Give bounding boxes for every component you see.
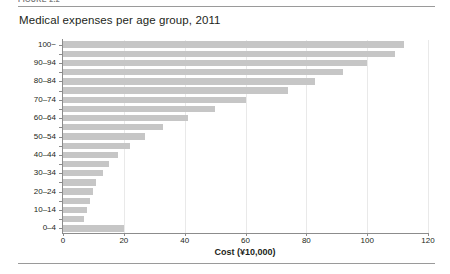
bar-row xyxy=(63,97,246,103)
bar xyxy=(63,152,118,158)
y-tick-label: 100~ xyxy=(0,40,56,49)
y-tick-mark xyxy=(59,219,62,220)
y-tick-mark xyxy=(59,146,62,147)
bar-row xyxy=(63,106,215,112)
bar xyxy=(63,106,215,112)
bar xyxy=(63,216,84,222)
y-tick-mark xyxy=(59,63,62,64)
x-axis-title: Cost (¥10,000) xyxy=(214,247,275,257)
y-tick-mark xyxy=(59,173,62,174)
bar xyxy=(63,78,315,84)
bar-row xyxy=(63,161,109,167)
bar xyxy=(63,60,367,66)
y-tick-label: 40–44 xyxy=(0,150,56,159)
bar xyxy=(63,97,246,103)
bar-row xyxy=(63,188,93,194)
y-tick-mark xyxy=(59,118,62,119)
chart-title: Medical expenses per age group, 2011 xyxy=(19,14,221,26)
y-tick-mark xyxy=(59,54,62,55)
bar-row xyxy=(63,207,87,213)
bar xyxy=(63,115,188,121)
bar-row xyxy=(63,51,395,57)
bar-row xyxy=(63,179,96,185)
bar xyxy=(63,133,145,139)
y-tick-mark xyxy=(59,182,62,183)
bar xyxy=(63,161,109,167)
bar xyxy=(63,170,103,176)
bar xyxy=(63,225,124,231)
bar-row xyxy=(63,87,288,93)
figure-caption-partial: FIGURE 2.2 xyxy=(18,0,60,3)
y-tick-mark xyxy=(59,228,62,229)
y-tick-label: 80–84 xyxy=(0,76,56,85)
bar-row xyxy=(63,69,343,75)
y-tick-mark xyxy=(59,164,62,165)
bar-row xyxy=(63,198,90,204)
x-tick-label: 0 xyxy=(61,236,65,245)
y-tick-label: 0–4 xyxy=(0,223,56,232)
x-tick-label: 20 xyxy=(119,236,128,245)
x-tick-label: 80 xyxy=(302,236,311,245)
bar-row xyxy=(63,225,124,231)
y-tick-mark xyxy=(59,45,62,46)
bar-row xyxy=(63,60,367,66)
bar xyxy=(63,207,87,213)
y-tick-mark xyxy=(59,127,62,128)
y-tick-mark xyxy=(59,100,62,101)
bar-row xyxy=(63,115,188,121)
bar xyxy=(63,143,130,149)
y-tick-label: 60–64 xyxy=(0,113,56,122)
y-tick-label: 20–24 xyxy=(0,187,56,196)
bar xyxy=(63,87,288,93)
y-tick-mark xyxy=(59,72,62,73)
y-tick-label: 50–54 xyxy=(0,132,56,141)
y-tick-label: 70–74 xyxy=(0,95,56,104)
bar-row xyxy=(63,216,84,222)
bar xyxy=(63,51,395,57)
bar-row xyxy=(63,170,103,176)
top-divider xyxy=(18,6,435,7)
y-tick-label: 90–94 xyxy=(0,58,56,67)
gridline xyxy=(428,40,429,233)
plot-area xyxy=(63,40,428,233)
x-tick-label: 40 xyxy=(180,236,189,245)
y-tick-mark xyxy=(59,155,62,156)
bar xyxy=(63,41,404,47)
bar xyxy=(63,179,96,185)
x-tick-label: 100 xyxy=(360,236,373,245)
x-tick-label: 60 xyxy=(241,236,250,245)
gridline xyxy=(367,40,368,233)
y-tick-mark xyxy=(59,192,62,193)
figure-page: FIGURE 2.2 Medical expenses per age grou… xyxy=(0,0,450,274)
bottom-divider xyxy=(18,263,435,264)
bar xyxy=(63,69,343,75)
y-tick-label: 30–34 xyxy=(0,168,56,177)
y-tick-mark xyxy=(59,201,62,202)
bar-row xyxy=(63,124,163,130)
bar xyxy=(63,188,93,194)
bar-row xyxy=(63,41,404,47)
bar-row xyxy=(63,133,145,139)
bar-row xyxy=(63,78,315,84)
y-tick-mark xyxy=(59,91,62,92)
y-tick-mark xyxy=(59,137,62,138)
y-tick-label: 10–14 xyxy=(0,205,56,214)
bar-row xyxy=(63,152,118,158)
bar xyxy=(63,124,163,130)
x-tick-label: 120 xyxy=(421,236,434,245)
y-tick-mark xyxy=(59,109,62,110)
bar-row xyxy=(63,143,130,149)
y-tick-mark xyxy=(59,210,62,211)
bar xyxy=(63,198,90,204)
y-tick-mark xyxy=(59,81,62,82)
